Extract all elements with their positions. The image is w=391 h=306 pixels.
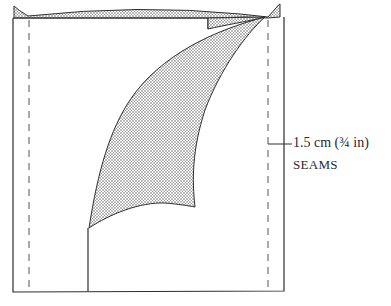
- pattern-diagram: [0, 0, 391, 306]
- curved-shaded-panel: [89, 17, 265, 228]
- seams-caption: SEAMS: [293, 158, 338, 171]
- seam-measurement-label: 1.5 cm (¾ in): [293, 136, 369, 150]
- top-shaded-band: [14, 4, 280, 18]
